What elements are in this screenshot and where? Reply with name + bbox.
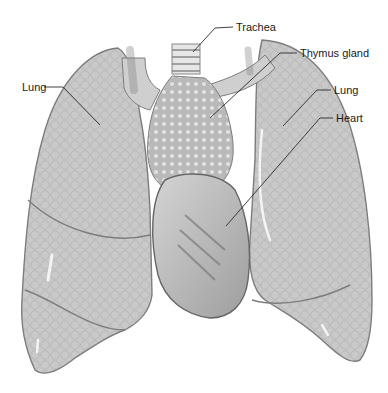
anatomy-figure: Trachea Thymus gland Lung Lung Heart <box>0 0 388 393</box>
label-heart: Heart <box>336 112 363 124</box>
label-lung-left: Lung <box>22 81 46 93</box>
label-trachea: Trachea <box>236 21 276 33</box>
heart <box>153 174 250 318</box>
label-thymus-gland: Thymus gland <box>300 47 369 59</box>
label-lung-right: Lung <box>334 84 358 96</box>
